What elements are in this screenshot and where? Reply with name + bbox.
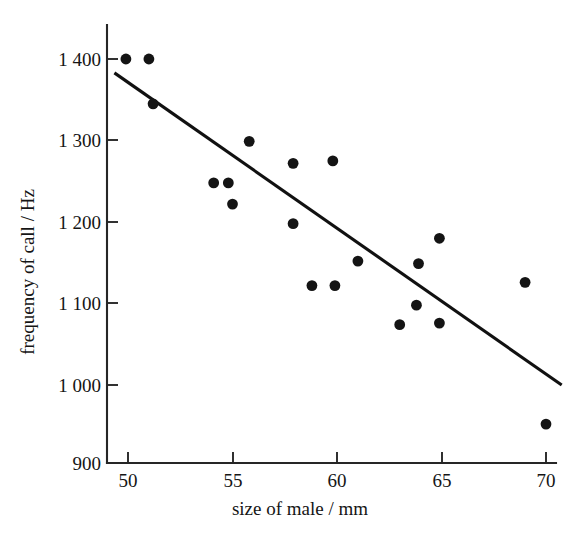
y-axis-ticks: [107, 59, 118, 385]
x-tick-label-65: 65: [433, 470, 452, 491]
data-point: [288, 158, 299, 169]
data-points-group: [121, 54, 552, 430]
data-point: [411, 300, 422, 311]
data-point: [434, 233, 445, 244]
data-point: [288, 218, 299, 229]
data-point: [394, 319, 405, 330]
x-axis-tick-labels: 50 55 60 65 70: [119, 470, 556, 491]
data-point: [413, 258, 424, 269]
x-tick-label-60: 60: [328, 470, 347, 491]
y-tick-label-1300: 1 300: [58, 130, 101, 151]
data-point: [244, 136, 255, 147]
data-point: [434, 318, 445, 329]
y-tick-label-1100: 1 100: [58, 293, 101, 314]
x-tick-label-50: 50: [119, 470, 138, 491]
x-axis-title: size of male / mm: [232, 498, 368, 519]
x-tick-label-70: 70: [537, 470, 556, 491]
scatter-chart-figure: 1 400 1 300 1 200 1 100 1 000 900 50 55 …: [0, 0, 568, 550]
chart-canvas: 1 400 1 300 1 200 1 100 1 000 900 50 55 …: [0, 0, 568, 550]
data-point: [223, 177, 234, 188]
data-point: [307, 280, 318, 291]
data-point: [330, 280, 341, 291]
data-point: [353, 256, 364, 267]
data-point: [541, 419, 552, 430]
data-point: [148, 98, 159, 109]
y-tick-label-1000: 1 000: [58, 375, 101, 396]
regression-trend-line: [114, 73, 561, 385]
data-point: [208, 177, 219, 188]
y-axis-tick-labels: 1 400 1 300 1 200 1 100 1 000 900: [58, 49, 101, 474]
data-point: [144, 54, 155, 65]
y-tick-label-1400: 1 400: [58, 49, 101, 70]
data-point: [227, 199, 238, 210]
y-tick-label-1200: 1 200: [58, 212, 101, 233]
y-tick-label-900: 900: [73, 453, 102, 474]
data-point: [121, 54, 132, 65]
data-point: [520, 277, 531, 288]
x-axis-ticks: [128, 452, 546, 463]
y-axis-title: frequency of call / Hz: [17, 189, 38, 355]
data-point: [327, 155, 338, 166]
x-tick-label-55: 55: [224, 470, 243, 491]
